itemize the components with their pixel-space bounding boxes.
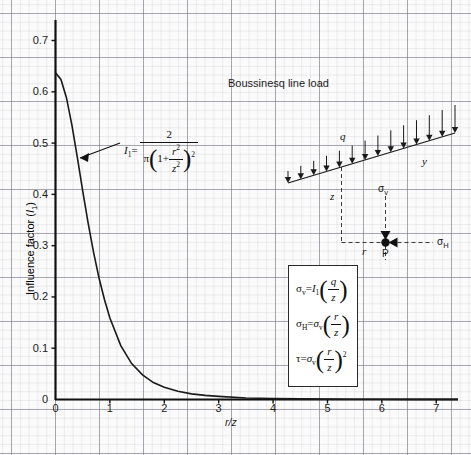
formula-inner-denominator: z2 (169, 160, 183, 175)
stress-equation-row: τ=σv(rz)2 (296, 345, 350, 374)
load-arrow-head (452, 127, 458, 133)
eq-paren-close: ) (334, 346, 342, 373)
x-axis-title-z: z (231, 416, 236, 428)
eq-paren-close: ) (341, 311, 349, 338)
eq-fraction-denominator: z (331, 325, 341, 339)
formula-equals: = (131, 144, 137, 156)
sigma-h-subscript: H (443, 241, 448, 250)
formula-inner-num-sup: 2 (176, 143, 180, 152)
y-tick-label: 0.7 (20, 35, 48, 46)
x-axis-title: r/z (225, 417, 237, 428)
eq-paren-open: ( (319, 276, 327, 303)
y-axis-title: Influence factor (I1) (24, 202, 39, 295)
line-load-arrows (285, 105, 458, 183)
x-tick-label: 4 (259, 403, 287, 414)
plot-canvas (0, 0, 471, 455)
x-tick-label: 0 (42, 403, 70, 414)
stress-equation-row: σH=σv(rz) (296, 310, 350, 339)
formula-inner-numerator: r2 (169, 143, 183, 159)
y-axis-title-subscript: 1 (30, 206, 39, 210)
stress-equations-box: σv=I1(qz)σH=σv(rz)τ=σv(rz)2 (288, 265, 358, 387)
x-tick-label: 2 (150, 403, 178, 414)
formula-numerator: 2 (140, 128, 198, 143)
eq-fraction: rz (324, 345, 334, 374)
diagram-sigma-v-label: σv (378, 183, 388, 197)
y-tick-label: 0.4 (20, 189, 48, 200)
x-tick-label: 6 (368, 403, 396, 414)
eq-paren-open: ( (323, 311, 331, 338)
y-axis-title-text: Influence factor ( (24, 213, 36, 295)
sigma-v-arrowhead (381, 231, 391, 240)
diagram-r-label: r (362, 245, 366, 257)
influence-factor-formula: I1= 2 π(1+r2z2)2 (124, 128, 198, 175)
eq-fraction-numerator: r (331, 310, 341, 325)
formula-denominator: π(1+r2z2)2 (140, 143, 198, 176)
x-tick-label: 7 (422, 403, 450, 414)
diagram-z-axis-label: z (330, 190, 334, 202)
y-axis-title-symbol: I (24, 210, 36, 213)
x-tick-label: 1 (96, 403, 124, 414)
formula-one-plus: 1+ (157, 152, 169, 164)
y-axis-title-close: ) (24, 202, 36, 206)
eq-paren-open: ( (316, 346, 324, 373)
eq-fraction-denominator: z (324, 360, 334, 374)
y-tick-label: 0.5 (20, 138, 48, 149)
chart-figure: 00.10.20.30.40.50.60.7 01234567 Influenc… (0, 0, 471, 455)
eq-fraction: rz (331, 310, 341, 339)
chart-title: Boussinesq line load (228, 78, 329, 89)
diagram-y-axis-label: y (422, 155, 427, 167)
eq-fraction-numerator: r (324, 345, 334, 360)
sigma-h-arrowhead (389, 238, 398, 248)
ground-line (288, 133, 455, 183)
stress-equations-rows: σv=I1(qz)σH=σv(rz)τ=σv(rz)2 (296, 275, 350, 374)
y-tick-label: 0.6 (20, 86, 48, 97)
influence-factor-curve (56, 73, 459, 400)
eq-fraction: qz (328, 275, 340, 304)
diagram-point-p-label: P (382, 248, 389, 259)
stress-equation-row: σv=I1(qz) (296, 275, 350, 304)
eq-fraction-denominator: z (328, 290, 340, 304)
eq-fraction-numerator: q (328, 275, 340, 290)
formula-main-fraction: 2 π(1+r2z2)2 (140, 128, 198, 175)
formula-leader-arrow (80, 143, 120, 162)
eq-power: 2 (343, 351, 347, 360)
sigma-v-subscript: v (384, 188, 388, 197)
formula-outer-power: 2 (191, 150, 195, 159)
x-tick-label: 3 (205, 403, 233, 414)
diagram-sigma-h-label: σH (437, 236, 449, 250)
formula-inner-den-sup: 2 (176, 160, 180, 169)
boussinesq-schematic (285, 105, 458, 260)
x-tick-label: 5 (313, 403, 341, 414)
eq-paren-close: ) (339, 276, 347, 303)
formula-inner-fraction: r2z2 (169, 143, 183, 174)
diagram-load-label: q (340, 130, 346, 142)
y-tick-label: 0.1 (20, 343, 48, 354)
